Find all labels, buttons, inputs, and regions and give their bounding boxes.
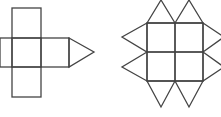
square-face — [147, 23, 175, 52]
square-face — [12, 38, 41, 67]
diagram-canvas — [0, 0, 221, 117]
square-face — [147, 52, 175, 81]
triangle-face — [175, 81, 203, 107]
triangle-face — [122, 52, 147, 81]
triangle-face — [147, 0, 175, 23]
triangle-face — [203, 52, 221, 81]
triangle-face — [147, 81, 175, 107]
net-left — [0, 8, 94, 97]
triangle-face — [69, 38, 94, 67]
triangle-face — [175, 0, 203, 23]
square-face — [12, 67, 41, 97]
triangle-face — [203, 23, 221, 52]
square-face — [12, 8, 41, 38]
square-face — [175, 23, 203, 52]
net-right — [122, 0, 221, 107]
square-face — [175, 52, 203, 81]
square-face — [41, 38, 69, 67]
triangle-face — [122, 23, 147, 52]
square-face — [0, 38, 12, 67]
